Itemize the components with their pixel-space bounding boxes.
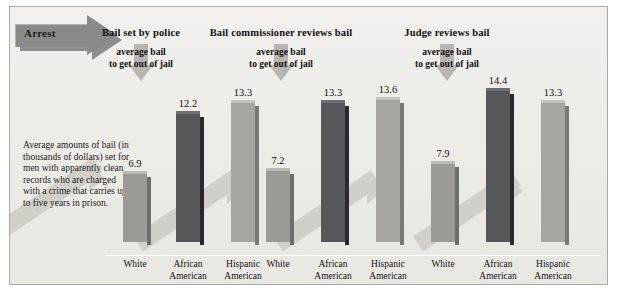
group-heading-1: Bail set by police xyxy=(66,27,216,38)
cat-label-line1: African xyxy=(303,259,363,271)
bar-g1-hispanic-american: 13.3 xyxy=(231,103,255,242)
group-subcaption-2: average bail to get out of jail xyxy=(206,47,356,70)
subcaption-line-2: to get out of jail xyxy=(206,59,356,71)
cat-label-g1-african-american: African American xyxy=(158,259,218,282)
cat-label-line2: American xyxy=(213,271,273,283)
bar-value-label: 14.4 xyxy=(489,75,507,86)
bar-g2-hispanic-american: 13.6 xyxy=(376,100,400,242)
bar-g3-hispanic-american: 13.3 xyxy=(541,103,565,242)
chart-description: Average amounts of bail (in thousands of… xyxy=(23,140,131,210)
bar-side-face xyxy=(290,174,294,245)
bar-front-face xyxy=(321,103,345,242)
cat-label-g2-white: White xyxy=(248,259,308,271)
bar-g2-african-american: 13.3 xyxy=(321,103,345,242)
bar-value-label: 13.6 xyxy=(379,84,397,95)
cat-label-g2-hispanic-american: Hispanic American xyxy=(358,259,418,282)
arrest-label: Arrest xyxy=(24,27,56,39)
cat-label-g1-white: White xyxy=(105,259,165,271)
cat-label-g3-white: White xyxy=(413,259,473,271)
cat-label-line1: Hispanic xyxy=(523,259,583,271)
bar-front-face xyxy=(431,164,455,242)
cat-label-line1: White xyxy=(413,259,473,271)
subcaption-line-2: to get out of jail xyxy=(372,59,522,71)
group-subcaption-1: average bail to get out of jail xyxy=(66,47,216,70)
bar-side-face xyxy=(255,106,259,245)
cat-label-g3-hispanic-american: Hispanic American xyxy=(523,259,583,282)
cat-label-line1: African xyxy=(158,259,218,271)
subcaption-line-2: to get out of jail xyxy=(66,59,216,71)
bar-value-label: 7.9 xyxy=(436,148,449,159)
bar-side-face xyxy=(345,106,349,245)
bar-g1-african-american: 12.2 xyxy=(176,114,200,242)
bar-value-label: 13.3 xyxy=(234,87,252,98)
cat-label-line1: Hispanic xyxy=(358,259,418,271)
bar-front-face xyxy=(486,91,510,242)
bar-g3-white: 7.9 xyxy=(431,164,455,242)
cat-label-line1: White xyxy=(248,259,308,271)
cat-label-line1: White xyxy=(105,259,165,271)
bar-value-label: 13.3 xyxy=(544,87,562,98)
cat-label-line2: American xyxy=(468,271,528,283)
bar-front-face xyxy=(266,171,290,242)
chart-frame: Arrest Bail set by police average bail t… xyxy=(9,6,608,285)
chart-screenshot: Arrest Bail set by police average bail t… xyxy=(0,0,618,290)
subcaption-line-1: average bail xyxy=(372,47,522,59)
group-subcaption-3: average bail to get out of jail xyxy=(372,47,522,70)
bar-g3-african-american: 14.4 xyxy=(486,91,510,242)
bar-front-face xyxy=(231,103,255,242)
bar-side-face xyxy=(510,94,514,245)
cat-label-line2: American xyxy=(158,271,218,283)
cat-label-line2: American xyxy=(358,271,418,283)
bar-value-label: 13.3 xyxy=(324,87,342,98)
bar-front-face xyxy=(123,174,147,242)
group-heading-3: Judge reviews bail xyxy=(372,27,522,38)
cat-label-line2: American xyxy=(523,271,583,283)
bar-g2-white: 7.2 xyxy=(266,171,290,242)
group-heading-2: Bail commissioner reviews bail xyxy=(206,27,356,38)
bar-side-face xyxy=(455,167,459,245)
bar-side-face xyxy=(147,177,151,245)
cat-label-line1: African xyxy=(468,259,528,271)
bar-value-label: 7.2 xyxy=(271,155,284,166)
bar-front-face xyxy=(541,103,565,242)
bar-value-label: 6.9 xyxy=(128,158,141,169)
subcaption-line-1: average bail xyxy=(66,47,216,59)
axis-baseline xyxy=(105,255,602,256)
subcaption-line-1: average bail xyxy=(206,47,356,59)
bar-side-face xyxy=(565,106,569,245)
cat-label-g2-african-american: African American xyxy=(303,259,363,282)
bar-value-label: 12.2 xyxy=(179,98,197,109)
cat-label-line2: American xyxy=(303,271,363,283)
bar-side-face xyxy=(400,103,404,245)
bar-side-face xyxy=(200,117,204,245)
cat-label-g3-african-american: African American xyxy=(468,259,528,282)
bar-front-face xyxy=(176,114,200,242)
bar-g1-white: 6.9 xyxy=(123,174,147,242)
bar-front-face xyxy=(376,100,400,242)
